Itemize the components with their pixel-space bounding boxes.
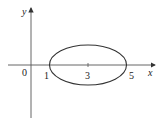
origin-label: 0	[22, 67, 27, 78]
y-axis-label: y	[21, 6, 27, 17]
x-axis-label: x	[147, 67, 153, 78]
tick-label-3: 3	[85, 70, 90, 81]
tick-label-1: 1	[44, 70, 49, 81]
tick-label-5: 5	[129, 70, 134, 81]
diagram-canvas: y x 0 1 3 5	[0, 0, 159, 122]
